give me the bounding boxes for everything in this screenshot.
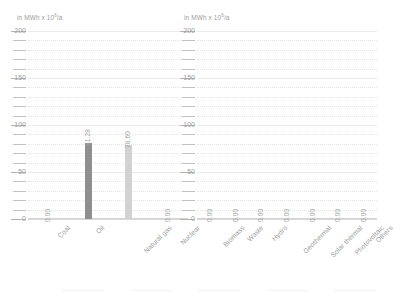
y-axis-tick [182, 163, 195, 164]
bar-value-label: 0.00 [360, 209, 367, 222]
unit-prefix-left: in MWh x 10 [17, 14, 54, 21]
y-axis-tick [182, 210, 195, 211]
y-axis-tick [13, 40, 26, 41]
y-axis-tick [182, 153, 195, 154]
y-axis-tick [182, 50, 195, 51]
y-axis-tick [13, 163, 26, 164]
bar-value-label: 0.00 [206, 209, 213, 222]
y-axis-tick [182, 191, 195, 192]
y-axis-unit-label-right: in MWh x 106/a [184, 13, 230, 21]
y-axis-tick [182, 116, 195, 117]
bar-oil[interactable] [85, 143, 92, 219]
y-axis-tick [13, 106, 26, 107]
y-axis-tick [182, 97, 195, 98]
bar-value-label: 0.00 [283, 209, 290, 222]
y-axis-tick-label: 0 [191, 215, 195, 222]
x-axis-category-label: Coal [56, 224, 71, 239]
y-axis-tick-label: 150 [183, 74, 195, 81]
footer-artifact [0, 289, 387, 299]
footer-artifact-cell [62, 289, 104, 292]
y-axis-tick [13, 69, 26, 70]
bar-slot[interactable] [274, 31, 300, 219]
bar-value-label: 78.60 [124, 131, 131, 148]
y-axis-tick [13, 59, 26, 60]
bar-slot[interactable] [300, 31, 326, 219]
y-axis-tick-label: 100 [14, 121, 26, 128]
bar-value-label: 81.28 [84, 129, 91, 146]
y-axis-tick [13, 181, 26, 182]
footer-artifact-cell [266, 289, 308, 292]
y-axis-tick-label: 150 [14, 74, 26, 81]
y-axis-tick [182, 87, 195, 88]
plot-area-right: 0501001502000.00Biomass0.00Waste0.00Hydr… [197, 31, 377, 219]
y-axis-tick [182, 40, 195, 41]
y-axis-tick [13, 144, 26, 145]
bar-slot[interactable] [68, 31, 108, 219]
unit-suffix-right: /a [224, 14, 230, 21]
y-axis-tick [13, 50, 26, 51]
x-axis-category-label: Oil [95, 224, 106, 235]
y-axis-tick [13, 153, 26, 154]
y-axis-tick [182, 144, 195, 145]
bar-value-label: 0.00 [309, 209, 316, 222]
y-axis-tick [182, 181, 195, 182]
unit-suffix-left: /a [57, 14, 63, 21]
bar-slot[interactable] [351, 31, 377, 219]
y-axis-tick [13, 116, 26, 117]
y-axis-tick [13, 87, 26, 88]
y-axis-tick [13, 134, 26, 135]
y-axis-tick-label: 200 [183, 27, 195, 34]
y-axis-tick [182, 200, 195, 201]
bar-slot[interactable] [326, 31, 352, 219]
bar-value-label: 0.00 [334, 209, 341, 222]
bar-value-label: 0.00 [44, 209, 51, 222]
y-axis-tick [182, 59, 195, 60]
bar-natural-gas[interactable] [125, 145, 132, 219]
footer-artifact-cell [334, 289, 376, 292]
y-axis-tick [13, 191, 26, 192]
unit-prefix-right: in MWh x 10 [184, 14, 221, 21]
y-axis-tick [13, 97, 26, 98]
bar-slot[interactable] [197, 31, 223, 219]
footer-artifact-cell [130, 289, 172, 292]
y-axis-tick-label: 50 [187, 168, 195, 175]
y-axis-unit-label-left: in MWh x 106/a [17, 13, 63, 21]
y-axis-tick-label: 200 [14, 27, 26, 34]
y-axis-tick [182, 106, 195, 107]
bar-value-label: 0.00 [232, 209, 239, 222]
y-axis-tick [182, 69, 195, 70]
y-axis-tick-label: 0 [22, 215, 26, 222]
bar-slot[interactable] [28, 31, 68, 219]
bar-slot[interactable] [108, 31, 148, 219]
bar-slot[interactable] [223, 31, 249, 219]
bar-slot[interactable] [248, 31, 274, 219]
y-axis-tick-label: 100 [183, 121, 195, 128]
y-axis-tick [182, 134, 195, 135]
y-axis-tick-label: 50 [18, 168, 26, 175]
y-axis-tick [13, 200, 26, 201]
footer-artifact-cell [198, 289, 240, 292]
y-axis-tick [13, 210, 26, 211]
bar-value-label: 0.00 [257, 209, 264, 222]
